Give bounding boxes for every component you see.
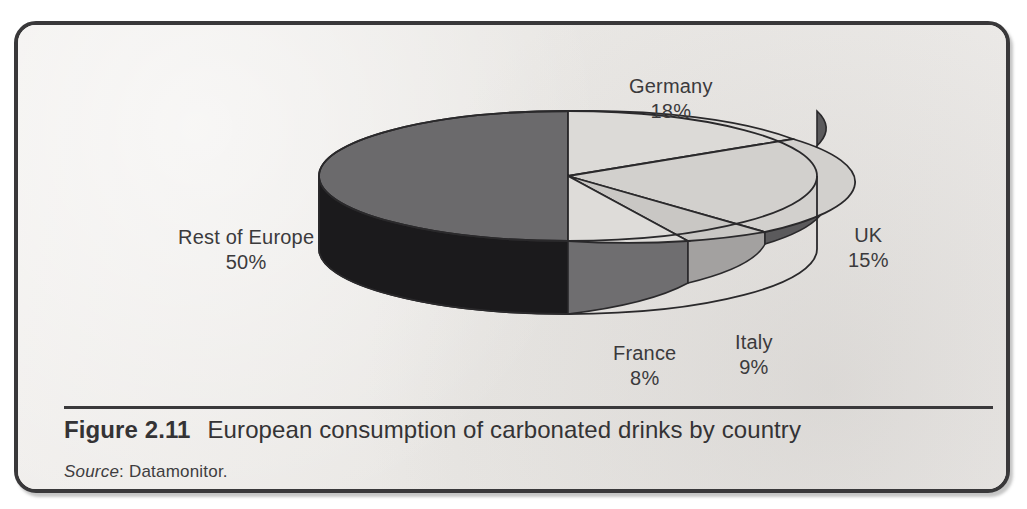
pie-label-uk-value: 15% [848, 248, 889, 273]
figure-page: Germany 18% UK 15% Italy 9% France 8% Re… [0, 0, 1027, 509]
source-label: Source [64, 462, 119, 481]
figure-caption: Figure 2.11European consumption of carbo… [64, 416, 984, 444]
caption-divider [64, 406, 993, 409]
pie-label-rest-of-europe: Rest of Europe 50% [178, 225, 314, 276]
pie-label-germany-name: Germany [629, 74, 713, 99]
source-value: Datamonitor. [129, 462, 228, 481]
pie-label-rest-of-europe-value: 50% [178, 250, 314, 275]
figure-card: Germany 18% UK 15% Italy 9% France 8% Re… [14, 21, 1010, 493]
pie-label-italy-name: Italy [735, 330, 773, 355]
figure-number: Figure 2.11 [64, 416, 191, 443]
pie-label-germany: Germany 18% [629, 74, 713, 125]
figure-caption-text: European consumption of carbonated drink… [208, 416, 802, 443]
pie-label-uk-name: UK [848, 223, 889, 248]
pie-label-germany-value: 18% [629, 99, 713, 124]
pie-label-italy-value: 9% [735, 355, 773, 380]
pie-label-italy: Italy 9% [735, 330, 773, 381]
pie-label-france-value: 8% [613, 366, 676, 391]
pie-label-france: France 8% [613, 341, 676, 392]
figure-source: Source: Datamonitor. [64, 462, 228, 482]
pie-label-france-name: France [613, 341, 676, 366]
source-separator: : [119, 462, 124, 481]
pie-label-rest-of-europe-name: Rest of Europe [178, 225, 314, 250]
pie-label-uk: UK 15% [848, 223, 889, 274]
